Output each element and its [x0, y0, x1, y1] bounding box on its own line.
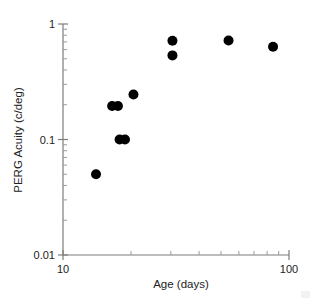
- data-point: [128, 90, 138, 100]
- x-tick-label: 100: [280, 263, 298, 275]
- perg-acuity-scatter-chart: 1010010.10.01 Age (days) PERG Acuity (c/…: [0, 0, 313, 300]
- data-point: [167, 36, 177, 46]
- y-tick-label: 1: [49, 18, 55, 30]
- data-point: [113, 101, 123, 111]
- y-tick-label: 0.1: [40, 134, 55, 146]
- data-point: [167, 50, 177, 60]
- x-tick-label: 10: [57, 263, 69, 275]
- y-tick-label: 0.01: [34, 249, 55, 261]
- x-axis-title: Age (days): [153, 278, 209, 290]
- corner-artifact: [301, 291, 310, 298]
- data-point: [224, 35, 234, 45]
- data-point: [268, 42, 278, 52]
- data-point: [91, 169, 101, 179]
- y-axis-title: PERG Acuity (c/deg): [12, 87, 24, 193]
- data-point: [120, 135, 130, 145]
